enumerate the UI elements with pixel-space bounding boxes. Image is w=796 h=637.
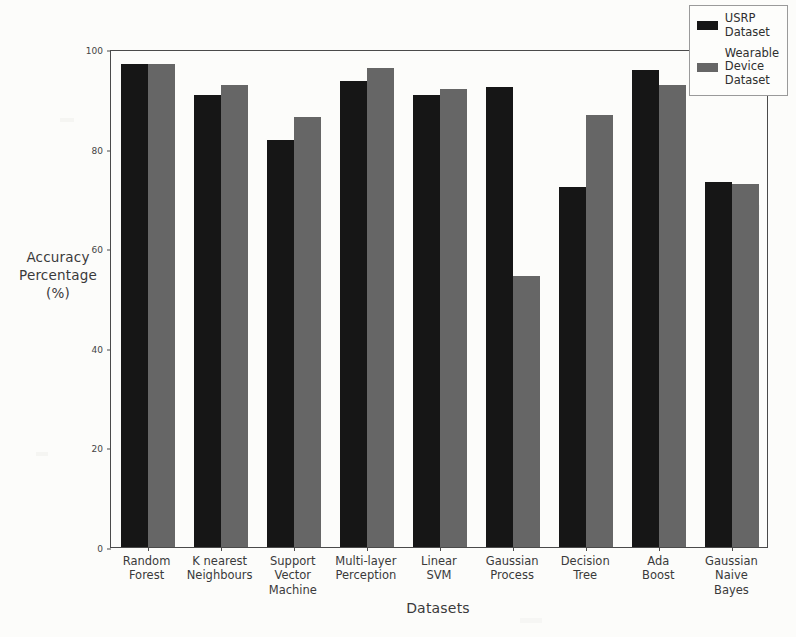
x-tick-mark	[659, 547, 660, 551]
x-tick-mark	[586, 547, 587, 551]
x-tick-mark	[221, 547, 222, 551]
x-tick-label: K nearest Neighbours	[183, 554, 256, 583]
bar-group	[403, 51, 476, 547]
bar	[194, 95, 221, 547]
y-tick-mark	[107, 349, 111, 350]
y-tick-label: 60	[73, 245, 103, 255]
bar-group	[696, 51, 769, 547]
bar	[221, 85, 248, 547]
bar	[513, 276, 540, 547]
page-speckle	[36, 452, 48, 456]
bar-group	[257, 51, 330, 547]
x-axis-title: Datasets	[108, 600, 768, 616]
bar-group	[477, 51, 550, 547]
bar	[340, 81, 367, 547]
y-tick-mark	[107, 150, 111, 151]
bar	[267, 140, 294, 547]
y-tick-label: 40	[73, 345, 103, 355]
bars-layer	[111, 51, 767, 547]
bar	[367, 68, 394, 547]
bar	[632, 70, 659, 547]
legend-label: Wearable Device Dataset	[725, 47, 779, 88]
legend-label: USRP Dataset	[725, 12, 770, 40]
y-tick-mark	[107, 51, 111, 52]
x-tick-mark	[513, 547, 514, 551]
bar	[440, 89, 467, 547]
page-speckle	[520, 618, 542, 623]
legend-item[interactable]: USRP Dataset	[697, 12, 779, 40]
x-tick-label: Gaussian Naive Bayes	[695, 554, 768, 597]
bar-group	[623, 51, 696, 547]
y-tick-label: 100	[73, 46, 103, 56]
bar-group	[330, 51, 403, 547]
x-tick-label: Multi-layer Perception	[329, 554, 402, 583]
y-tick-mark	[107, 449, 111, 450]
bar	[659, 85, 686, 547]
bar	[413, 95, 440, 547]
bar	[705, 182, 732, 547]
y-tick-mark	[107, 250, 111, 251]
x-tick-label: Decision Tree	[549, 554, 622, 583]
x-tick-label: Linear SVM	[402, 554, 475, 583]
plot-area: 020406080100	[110, 50, 768, 548]
chart-figure: Accuracy Percentage (%) 020406080100 Ran…	[0, 0, 796, 637]
x-tick-label: Support Vector Machine	[256, 554, 329, 597]
x-tick-label: Ada Boost	[622, 554, 695, 583]
x-tick-mark	[732, 547, 733, 551]
x-tick-mark	[148, 547, 149, 551]
bar	[732, 184, 759, 547]
y-tick-label: 20	[73, 444, 103, 454]
bar-group	[550, 51, 623, 547]
legend-swatch-icon	[697, 63, 718, 72]
y-tick-label: 80	[73, 146, 103, 156]
bar	[586, 115, 613, 547]
bar	[121, 64, 148, 547]
y-axis-title: Accuracy Percentage (%)	[14, 248, 102, 303]
x-tick-mark	[367, 547, 368, 551]
x-tick-label: Random Forest	[110, 554, 183, 583]
legend-item[interactable]: Wearable Device Dataset	[697, 47, 779, 88]
chart-legend: USRP DatasetWearable Device Dataset	[689, 5, 788, 96]
x-tick-mark	[294, 547, 295, 551]
x-tick-label: Gaussian Process	[476, 554, 549, 583]
bar-group	[111, 51, 184, 547]
bar	[559, 187, 586, 547]
x-tick-mark	[440, 547, 441, 551]
bar-group	[184, 51, 257, 547]
page-speckle	[60, 118, 74, 122]
y-tick-label: 0	[73, 544, 103, 554]
bar	[148, 64, 175, 547]
y-tick-mark	[107, 549, 111, 550]
bar	[294, 117, 321, 547]
bar	[486, 87, 513, 547]
legend-swatch-icon	[697, 21, 718, 30]
